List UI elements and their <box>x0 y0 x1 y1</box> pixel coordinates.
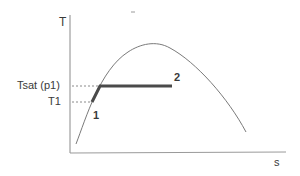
saturation-dome <box>76 44 246 144</box>
y-axis-label: T <box>59 17 66 28</box>
t-s-diagram: T s Tsat (p1) T1 1 2 <box>0 0 300 176</box>
x-axis <box>70 152 286 153</box>
process-path <box>92 86 172 102</box>
state-1-label: 1 <box>93 110 99 121</box>
x-axis-label: s <box>274 157 280 168</box>
tsat-label: Tsat (p1) <box>17 80 60 91</box>
state-2-label: 2 <box>174 72 180 83</box>
t1-label: T1 <box>48 96 61 107</box>
